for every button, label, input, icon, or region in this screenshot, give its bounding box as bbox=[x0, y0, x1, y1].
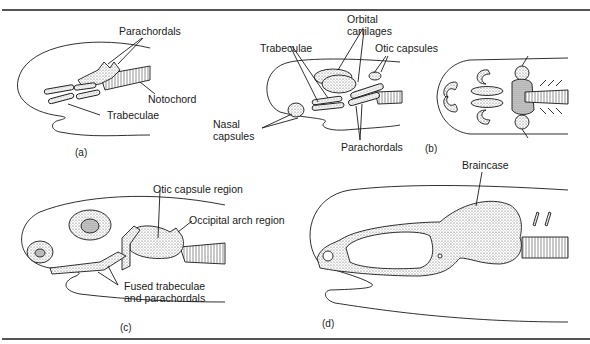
caption-c: (c) bbox=[120, 322, 132, 333]
label-orbital-2: cartilages bbox=[347, 25, 392, 37]
panel-d bbox=[310, 172, 568, 322]
label-trabeculae-a: Trabeculae bbox=[107, 109, 159, 121]
caption-d: (d) bbox=[322, 318, 334, 329]
label-orbital-1: Orbital bbox=[347, 13, 378, 25]
label-parachordals-b: Parachordals bbox=[341, 141, 403, 153]
label-occipital-arch-region: Occipital arch region bbox=[189, 214, 285, 226]
label-fused-2: and parachordals bbox=[124, 292, 205, 304]
caption-b: (b) bbox=[425, 143, 437, 154]
label-trabeculae-b: Trabeculae bbox=[260, 42, 312, 54]
caption-a: (a) bbox=[75, 147, 87, 158]
panel-b-dorsal bbox=[437, 56, 568, 138]
label-nasal-1: Nasal bbox=[213, 118, 240, 130]
label-otic-capsules: Otic capsules bbox=[375, 42, 438, 54]
label-otic-capsule-region: Otic capsule region bbox=[153, 183, 243, 195]
panel-a bbox=[17, 38, 155, 136]
label-parachordals-a: Parachordals bbox=[119, 25, 181, 37]
label-fused-1: Fused trabeculae bbox=[124, 280, 205, 292]
label-nasal-2: capsules bbox=[213, 130, 254, 142]
label-notochord: Notochord bbox=[148, 93, 196, 105]
label-braincase: Braincase bbox=[462, 159, 509, 171]
